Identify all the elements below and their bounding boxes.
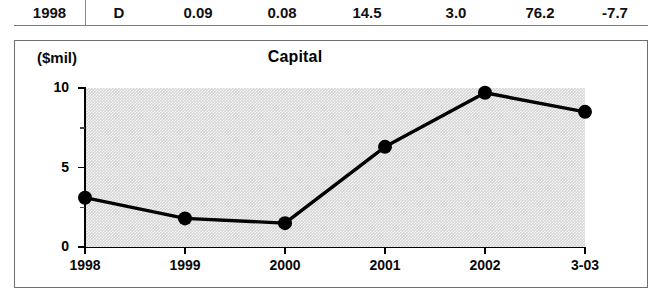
table-cell-value2: 0.08 xyxy=(244,0,320,26)
x-tick-label: 2002 xyxy=(440,257,530,273)
x-tick-mark xyxy=(84,247,86,254)
y-tick-mark xyxy=(78,167,85,169)
y-tick-minor xyxy=(80,207,85,209)
table-cell-grade: D xyxy=(86,0,152,26)
table-row: 1998 D 0.09 0.08 14.5 3.0 76.2 -7.7 xyxy=(14,0,648,26)
y-tick-mark xyxy=(78,87,85,89)
table-cell-value3: 14.5 xyxy=(320,0,414,26)
plot-area xyxy=(85,88,585,247)
x-tick-label: 1998 xyxy=(40,257,130,273)
x-tick-label: 2001 xyxy=(340,257,430,273)
x-tick-mark xyxy=(284,247,286,254)
table-cell-value1: 0.09 xyxy=(152,0,244,26)
y-tick-label: 10 xyxy=(29,79,69,95)
table-cell-value6: -7.7 xyxy=(582,0,648,26)
y-tick-label: 5 xyxy=(29,159,69,175)
y-tick-label: 0 xyxy=(29,238,69,254)
x-axis-line xyxy=(84,247,586,249)
x-tick-mark xyxy=(384,247,386,254)
chart-title: Capital xyxy=(15,48,647,66)
x-tick-label: 2000 xyxy=(240,257,330,273)
x-tick-label: 1999 xyxy=(140,257,230,273)
x-tick-label: 3-03 xyxy=(540,257,630,273)
chart-panel: ($mil) Capital 0510 19981999200020012002… xyxy=(14,40,648,288)
x-tick-mark xyxy=(584,247,586,254)
table-cell-year: 1998 xyxy=(14,0,86,26)
x-tick-mark xyxy=(484,247,486,254)
x-tick-mark xyxy=(184,247,186,254)
y-tick-minor xyxy=(80,127,85,129)
table-cell-value5: 76.2 xyxy=(498,0,582,26)
table-cell-value4: 3.0 xyxy=(414,0,498,26)
